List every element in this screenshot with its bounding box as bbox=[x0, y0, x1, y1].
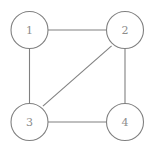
graph-node-3[interactable]: 3 bbox=[11, 104, 48, 141]
graph-node-1[interactable]: 1 bbox=[11, 12, 48, 49]
graph-node-label-1: 1 bbox=[26, 24, 33, 37]
graph-node-label-4: 4 bbox=[122, 116, 129, 129]
graph-diagram-canvas: 1234 bbox=[0, 0, 155, 153]
graph-edge-3-2 bbox=[43, 46, 112, 106]
graph-svg: 1234 bbox=[0, 0, 155, 153]
edge-layer bbox=[30, 30, 126, 122]
graph-node-label-3: 3 bbox=[26, 116, 33, 129]
graph-node-label-2: 2 bbox=[122, 24, 129, 37]
graph-node-4[interactable]: 4 bbox=[107, 104, 144, 141]
graph-node-2[interactable]: 2 bbox=[107, 12, 144, 49]
